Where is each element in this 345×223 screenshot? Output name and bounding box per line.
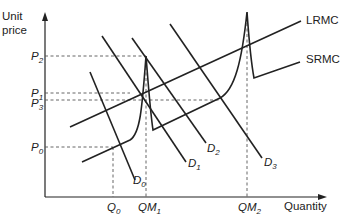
label-d0: D0	[133, 174, 146, 189]
label-q0: Q0	[107, 201, 121, 216]
axes	[42, 12, 327, 200]
label-d2: D2	[207, 142, 220, 157]
label-srmc: SRMC	[306, 53, 340, 65]
label-qm2: QM2	[238, 201, 262, 216]
label-d1: D1	[188, 157, 201, 172]
label-p0: P0	[31, 141, 44, 156]
y-axis-label-line1: Unit	[2, 10, 23, 22]
marginal-cost-diagram: Unit price Quantity P2 P1 P3 P0 Q0 QM1 Q…	[0, 0, 345, 223]
label-qm1: QM1	[138, 201, 161, 216]
demand-curve-d0	[90, 72, 135, 180]
label-d3: D3	[264, 156, 277, 171]
label-p2: P2	[31, 50, 44, 65]
demand-curve-d3	[170, 24, 262, 158]
y-axis-label-line2: price	[2, 24, 27, 36]
label-lrmc: LRMC	[306, 14, 339, 26]
srmc-curve	[82, 12, 300, 162]
y-axis-arrow-icon	[42, 12, 48, 21]
x-axis-label: Quantity	[284, 200, 327, 212]
guide-lines	[45, 12, 247, 197]
